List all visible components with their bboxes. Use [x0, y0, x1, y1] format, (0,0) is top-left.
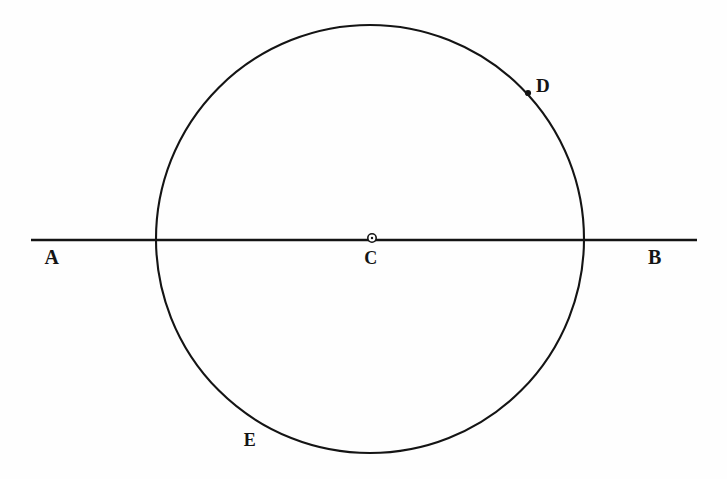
geometric-figure-canvas: A B C D E	[0, 0, 727, 479]
point-marker-d	[525, 90, 531, 96]
point-label-a: A	[45, 247, 60, 267]
point-label-c: C	[364, 249, 378, 267]
figure-drawing-surface	[0, 0, 727, 479]
point-label-b: B	[648, 247, 662, 267]
point-label-e: E	[244, 431, 257, 449]
point-label-d: D	[536, 76, 550, 95]
center-point-core	[371, 237, 373, 239]
